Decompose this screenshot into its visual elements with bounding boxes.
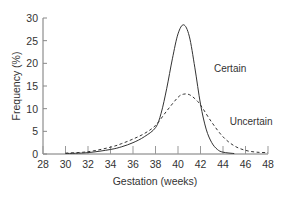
x-tick-label: 38 (150, 158, 162, 170)
series-group (66, 25, 269, 154)
annotation-certain: Certain (214, 63, 246, 74)
line-chart: 0510152025302830323436384042444648 Certa… (0, 0, 285, 198)
y-tick-label: 25 (26, 35, 38, 47)
axes: 0510152025302830323436384042444648 (26, 12, 274, 170)
y-axis-label: Frequency (%) (10, 52, 22, 121)
x-tick-label: 40 (172, 158, 184, 170)
x-tick-label: 36 (127, 158, 139, 170)
x-tick-label: 48 (262, 158, 274, 170)
y-tick-label: 20 (26, 57, 38, 69)
y-tick-label: 15 (26, 80, 38, 92)
x-tick-label: 42 (195, 158, 207, 170)
x-axis-label: Gestation (weeks) (113, 175, 198, 187)
x-tick-label: 34 (105, 158, 117, 170)
y-tick-label: 5 (32, 125, 38, 137)
x-tick-label: 44 (217, 158, 229, 170)
annotation-uncertain: Uncertain (230, 116, 273, 127)
y-tick-label: 30 (26, 12, 38, 24)
x-tick-label: 28 (37, 158, 49, 170)
x-tick-label: 30 (60, 158, 72, 170)
annotations: CertainUncertain (214, 63, 273, 126)
y-tick-label: 10 (26, 103, 38, 115)
x-tick-label: 32 (82, 158, 94, 170)
series-certain-line (66, 25, 235, 154)
x-tick-label: 46 (240, 158, 252, 170)
